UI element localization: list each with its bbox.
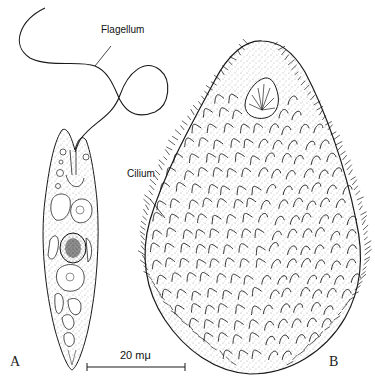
illustration xyxy=(0,0,375,380)
flagellate-a xyxy=(19,8,167,370)
cilium-label: Cilium xyxy=(127,168,155,179)
figure: Flagellum Cilium 20 mμ A B xyxy=(0,0,375,380)
flagellum-leader xyxy=(95,46,111,66)
scale-bar xyxy=(87,363,185,371)
scale-bar-label: 20 mμ xyxy=(120,349,151,361)
flagellum-line xyxy=(19,8,167,152)
panel-label-a: A xyxy=(10,354,20,370)
panel-label-b: B xyxy=(329,354,338,370)
flagellum-label: Flagellum xyxy=(101,24,144,35)
ciliate-b xyxy=(138,39,372,374)
